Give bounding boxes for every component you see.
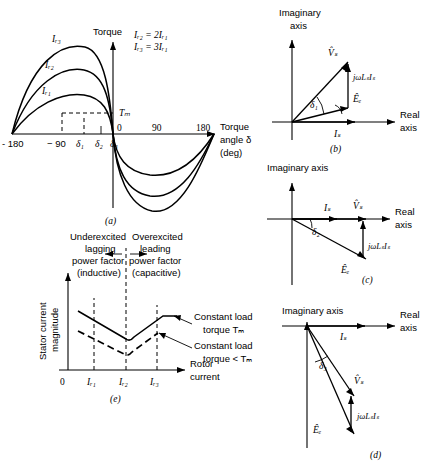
panel-c-imaginary-axis-label: Imaginary axis (267, 162, 328, 173)
panel-b-caption: (b) (330, 144, 341, 155)
panel-a-tm-label: Tₘ (119, 108, 130, 118)
panel-e-y-axis-label-line2: magnitude (49, 308, 60, 352)
panel-a-curve-label-ir2: Iᵣ₂ (44, 60, 55, 70)
panel-e-region-right-line4: (capacitive) (132, 267, 181, 278)
panel-a-curve-label-ir1: Iᵣ₁ (41, 86, 51, 96)
panel-d-label-vs: V̂ₛ (354, 374, 364, 386)
panel-e-series-label-2-line1: Constant load (194, 340, 253, 351)
panel-e-caption: (e) (110, 394, 121, 405)
panel-a-delta3-label: δ₃ (110, 139, 118, 149)
panel-c-label-delta2: δ₂ (312, 227, 320, 237)
panel-a-tm-guides (62, 113, 113, 134)
panel-a-xtick-90: 90 (152, 123, 162, 133)
panel-b-label-jwlsis: jωLₛIₛ (352, 72, 376, 82)
panel-e-xtick-0: 0 (60, 377, 65, 387)
panel-d-label-jwlsis: jωLₛIₛ (356, 411, 380, 421)
panel-d-vector-ef (307, 326, 354, 434)
panel-d-label-is: Iₛ (339, 332, 347, 342)
panel-e-series-label-1-line2: torque Tₘ (203, 324, 244, 335)
panel-d-label-delta3: δ₃ (319, 361, 327, 371)
panel-a-xtick-180: 180 (196, 123, 211, 133)
panel-e-x-axis (59, 367, 185, 373)
panel-c-label-jwlsis: jωLₛIₛ (367, 241, 391, 251)
panel-e-region-left-line2: lagging (85, 243, 116, 254)
panel-d-label-ef: Êₑ (312, 424, 322, 435)
panel-a-delta2-label: δ₂ (95, 139, 103, 149)
panel-b-real-axis-label-line2: axis (400, 122, 417, 133)
panel-b-imaginary-axis (289, 40, 295, 140)
panel-d-vector-jwlsis (348, 396, 354, 432)
panel-a-xtick-neg90: − 90 (47, 138, 66, 149)
panel-b-label-delta1: δ₁ (310, 100, 318, 110)
panel-e-y-axis (65, 273, 71, 370)
panel-d-real-axis-label-line2: axis (400, 322, 417, 333)
panel-c-label-ef: Êₑ (340, 264, 350, 275)
panel-a-x-axis-label-line3: (deg) (220, 147, 242, 158)
panel-e-region-left-line1: Underexcited (70, 231, 126, 242)
panel-b-imaginary-axis-label-line2: axis (290, 20, 307, 31)
panel-b-imaginary-axis-label-line1: Imaginary (279, 7, 321, 18)
panel-c-real-axis-label-line2: axis (395, 219, 412, 230)
panel-b-vector-vs (292, 62, 348, 122)
panel-c-phasor-diagram: Imaginary axis Real axis Iₛ V̂ₛ jωLₛIₛ Ê… (262, 155, 439, 300)
panel-c-imaginary-axis (289, 183, 295, 285)
panel-c-caption: (c) (362, 275, 373, 286)
panel-e-region-right-line2: leading (140, 243, 171, 254)
panel-b-angle-arc-delta1 (317, 97, 324, 114)
panel-e-region-right-line3: power factor (129, 255, 181, 266)
panel-a-equation-1: Iᵣ₂ = 2Iᵣ₁ (133, 30, 168, 40)
panel-c-label-vs: V̂ₛ (353, 199, 363, 211)
panel-e-leader-2 (159, 333, 192, 348)
panel-b-label-is: Iₛ (333, 129, 341, 139)
panel-a-torque-angle-chart: - 180 − 90 0 90 180 δ₁ δ₂ δ₃ Tₘ Torque T… (0, 0, 262, 230)
panel-c-real-axis-label-line1: Real (395, 206, 415, 217)
panel-d-phasor-diagram: Imaginary axis Real axis Iₛ V̂ₛ jωLₛIₛ Ê… (262, 300, 439, 464)
panel-e-x-axis-label-line2: current (190, 371, 220, 382)
panel-e-series-label-2-line2: torque < Tₘ (203, 353, 252, 364)
panel-c-vector-jwlsis (360, 221, 366, 257)
panel-a-equation-2: Iᵣ₃ = 3Iᵣ₁ (133, 42, 168, 52)
panel-e-region-right-line1: Overexcited (132, 231, 183, 242)
panel-a-x-axis-label-line2: angle δ (220, 134, 251, 145)
panel-d-imaginary-axis-label: Imaginary axis (282, 305, 343, 316)
panel-a-curve-label-ir3: Iᵣ₃ (51, 34, 61, 44)
panel-e-series-label-1-line1: Constant load (194, 311, 253, 322)
panel-a-xtick-neg180: - 180 (2, 138, 24, 149)
panel-e-region-left-line3: power factor (72, 255, 124, 266)
panel-c-label-is: Iₛ (323, 203, 331, 213)
panel-d-vector-is (307, 323, 365, 329)
panel-e-v-curves-chart: Underexcited lagging power factor (induc… (22, 230, 284, 405)
panel-a-delta1-label: δ₁ (76, 139, 84, 149)
panel-b-phasor-diagram: Imaginary axis Real axis V̂ₛ jωLₛIₛ Êₑ I… (262, 0, 439, 155)
panel-d-caption: (d) (370, 450, 381, 461)
panel-b-label-vs: V̂ₛ (328, 46, 338, 58)
panel-a-caption: (a) (105, 216, 116, 227)
panel-e-xtick-ir3: Iᵣ₃ (149, 377, 159, 387)
panel-a-y-axis-label: Torque (93, 26, 122, 37)
panel-e-xtick-ir1: Iᵣ₁ (86, 377, 96, 387)
panel-b-real-axis-label-line1: Real (400, 109, 420, 120)
panel-d-imaginary-axis (304, 322, 310, 448)
panel-e-leader-1 (174, 315, 192, 324)
panel-e-y-axis-label-line1: Stator current (37, 302, 48, 360)
panel-d-real-axis-label-line1: Real (400, 309, 420, 320)
panel-a-xtick-0: 0 (117, 123, 122, 133)
panel-e-xtick-ir2: Iᵣ₂ (118, 377, 129, 387)
panel-a-x-axis-label-line1: Torque (220, 121, 249, 132)
panel-c-vector-ef (292, 219, 366, 259)
panel-e-region-left-line4: (inductive) (77, 267, 121, 278)
panel-b-label-ef: Êₑ (352, 93, 362, 104)
panel-b-vector-jwlsis (345, 64, 351, 108)
